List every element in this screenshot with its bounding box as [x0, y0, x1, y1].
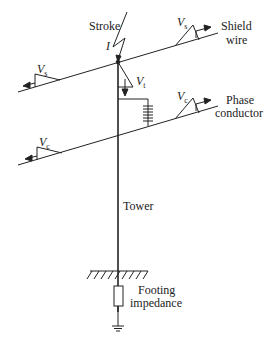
- ground-symbol-icon: [112, 326, 124, 331]
- footing-label-1: Footing: [138, 283, 175, 297]
- shield-wire-label-2: wire: [226, 33, 247, 47]
- shield-right-arrow-icon: [204, 25, 211, 31]
- tower-wave-arrow-icon: [122, 89, 128, 96]
- tower-label: Tower: [123, 199, 153, 213]
- tower-voltage: Vt: [136, 74, 146, 90]
- phase-left-voltage: Vc: [39, 135, 50, 151]
- footing-label-2: impedance: [130, 296, 182, 310]
- diagram-canvas: Stroke I Shield wire Phase conductor Tow…: [0, 0, 274, 344]
- phase-conductor-label-1: Phase: [226, 93, 254, 107]
- shield-wire-label-1: Shield: [221, 19, 252, 33]
- phase-right-voltage: Vc: [177, 89, 188, 105]
- shield-left-voltage: Vs: [37, 62, 47, 78]
- phase-left-arrow-icon: [25, 155, 32, 161]
- crossarm: [118, 99, 148, 104]
- phase-conductor-label-2: conductor: [215, 106, 263, 120]
- insulator-icon: [143, 104, 153, 126]
- shield-left-arrow-icon: [23, 82, 30, 88]
- footing-impedance-resistor-icon: [114, 286, 123, 306]
- current-label: I: [105, 39, 111, 53]
- stroke-label: Stroke: [89, 19, 120, 33]
- shield-right-voltage: Vs: [177, 15, 187, 31]
- phase-right-arrow-icon: [204, 98, 211, 104]
